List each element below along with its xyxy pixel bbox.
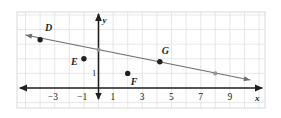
x-tick-label: −3 xyxy=(48,93,59,103)
point-g xyxy=(157,59,162,64)
x-tick-label: 5 xyxy=(169,93,174,103)
y-unit-label: 1 xyxy=(92,69,96,78)
x-tick-label: 3 xyxy=(140,93,145,103)
point-label-d: D xyxy=(45,23,52,33)
x-tick-label: 9 xyxy=(227,93,232,103)
x-tick-label: 7 xyxy=(198,93,203,103)
y-axis-label: y xyxy=(103,16,107,25)
x-tick-label: −1 xyxy=(77,93,88,103)
coordinate-plane-figure: DEFG−3−113579xy1 xyxy=(0,0,281,118)
point-f xyxy=(125,71,130,76)
x-axis-label: x xyxy=(255,94,260,103)
x-tick-label: 1 xyxy=(111,93,116,103)
line-marker-point xyxy=(213,71,217,75)
point-label-f: F xyxy=(131,77,138,87)
point-d xyxy=(37,37,42,42)
point-e xyxy=(81,56,86,61)
point-label-e: E xyxy=(71,57,78,67)
point-label-g: G xyxy=(162,46,169,56)
line-marker-point xyxy=(96,48,100,52)
